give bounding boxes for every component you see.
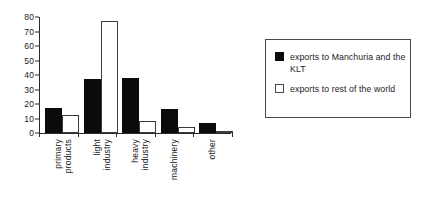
category-label-line: industry <box>141 139 151 201</box>
category-label-line: primary <box>53 139 63 169</box>
bar <box>62 115 79 133</box>
category-label-line: other <box>207 139 217 159</box>
legend-entry-label: exports to Manchuria and the KLT <box>290 51 408 75</box>
bar <box>216 131 233 133</box>
category-label-line: machinery <box>169 139 179 180</box>
bar <box>178 127 195 133</box>
category-label-line: industry <box>102 139 112 201</box>
legend-entry-label: exports to rest of the world <box>290 83 408 95</box>
bar <box>101 21 118 133</box>
x-axis-category-label: other <box>208 139 218 201</box>
white-square-icon <box>275 84 284 93</box>
bar <box>84 79 101 133</box>
bar <box>139 121 156 133</box>
category-label-line: heavy <box>130 139 140 163</box>
bar-chart-figure: 01020304050607080 primaryproductslightin… <box>0 0 422 203</box>
x-axis-category-label: heavyindustry <box>131 139 150 201</box>
legend-entry-manchuria: exports to Manchuria and the KLT <box>275 51 408 75</box>
bar <box>161 109 178 133</box>
plot-area: 01020304050607080 primaryproductslightin… <box>0 0 270 203</box>
bar <box>122 78 139 133</box>
legend-entry-rest-of-world: exports to rest of the world <box>275 83 408 95</box>
x-axis-category-label: machinery <box>170 139 180 201</box>
category-label-line: products <box>64 139 74 201</box>
x-axis-category-label: primaryproducts <box>54 139 73 201</box>
black-square-icon <box>275 52 284 61</box>
category-label-line: light <box>92 139 102 156</box>
x-axis-category-label: lightindustry <box>93 139 112 201</box>
bar <box>45 108 62 133</box>
bar <box>199 123 216 133</box>
chart-legend: exports to Manchuria and the KLT exports… <box>265 39 411 118</box>
